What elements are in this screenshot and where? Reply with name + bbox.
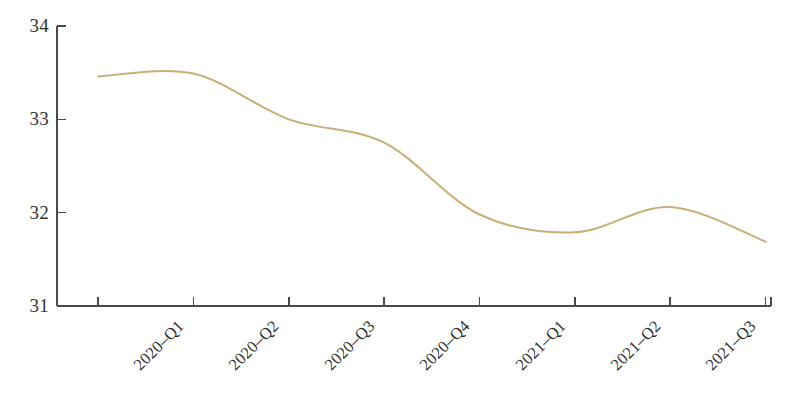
y-axis-tick-label: 33 (9, 109, 49, 128)
chart-figure: 31323334 2020–Q12020–Q22020–Q32020–Q4202… (0, 0, 794, 402)
line-chart-plot (0, 0, 794, 402)
series-line (98, 71, 766, 242)
y-axis-tick-label: 32 (9, 203, 49, 222)
chart-axes (57, 26, 771, 306)
chart-series (98, 71, 766, 242)
y-axis-tick-label: 31 (9, 296, 49, 315)
y-axis-tick-label: 34 (9, 16, 49, 35)
